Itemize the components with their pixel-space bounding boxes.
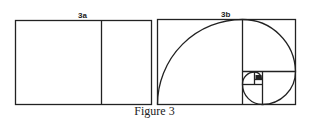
panel-label-3b: 3b: [221, 10, 230, 19]
panel-3a: [16, 21, 152, 105]
figure-caption: Figure 3: [0, 104, 309, 119]
golden-spiral: [158, 20, 296, 105]
panel-label-3a: 3a: [78, 11, 87, 20]
panel-3b: [158, 20, 296, 105]
